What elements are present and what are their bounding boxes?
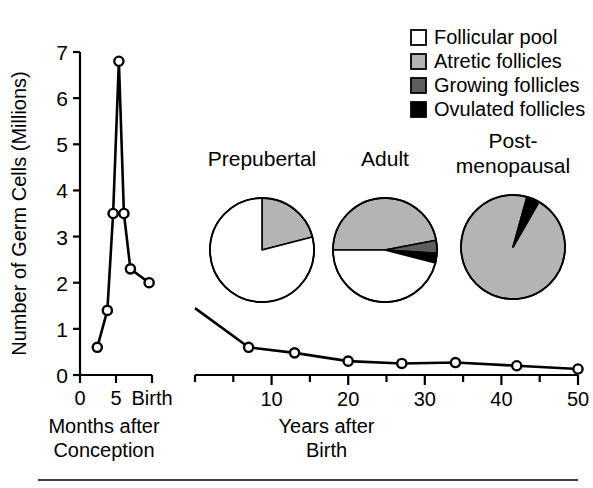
x-axis-title-postnatal-line2: Birth bbox=[306, 439, 347, 461]
germ-cell-figure: 01234567Number of Germ Cells (Millions)0… bbox=[0, 0, 593, 488]
legend-swatch-white-square-icon bbox=[411, 30, 426, 45]
y-axis-tick-label: 4 bbox=[56, 179, 68, 202]
data-point-marker bbox=[451, 358, 460, 367]
y-axis-tick-label: 5 bbox=[56, 133, 68, 156]
legend-label: Growing follicles bbox=[434, 74, 580, 96]
data-point-marker bbox=[93, 343, 102, 352]
data-point-marker bbox=[126, 264, 135, 273]
pie-title: Post- bbox=[488, 129, 537, 152]
y-axis-tick-label: 7 bbox=[56, 41, 68, 64]
postnatal-panel-line bbox=[195, 308, 578, 369]
y-axis-tick-label: 0 bbox=[56, 364, 68, 387]
data-point-marker bbox=[573, 364, 582, 373]
y-axis-tick-label: 3 bbox=[56, 226, 68, 249]
legend-swatch-black-square-icon bbox=[411, 102, 426, 117]
data-point-marker bbox=[290, 348, 299, 357]
data-point-marker bbox=[119, 209, 128, 218]
x-axis-title-prenatal-line2: Conception bbox=[53, 439, 154, 461]
pie-title: menopausal bbox=[456, 154, 570, 177]
figure-canvas: 01234567Number of Germ Cells (Millions)0… bbox=[0, 0, 593, 488]
pie-title: Prepubertal bbox=[208, 147, 317, 170]
x-axis-title-prenatal-line1: Months after bbox=[48, 415, 160, 437]
legend-label: Atretic follicles bbox=[434, 50, 562, 72]
data-point-marker bbox=[344, 357, 353, 366]
data-point-marker bbox=[244, 343, 253, 352]
pie-title: Adult bbox=[361, 147, 409, 170]
x-axis-title-postnatal-line1: Years after bbox=[279, 415, 375, 437]
legend-swatch-dark-gray-square-icon bbox=[411, 78, 426, 93]
data-point-marker bbox=[145, 278, 154, 287]
data-point-marker bbox=[114, 57, 123, 66]
legend-swatch-light-gray-square-icon bbox=[411, 54, 426, 69]
x-axis-tick-label-prenatal: 0 bbox=[74, 387, 85, 409]
y-axis-title: Number of Germ Cells (Millions) bbox=[8, 71, 30, 356]
x-axis-tick-label-postnatal: 50 bbox=[567, 388, 589, 410]
data-point-marker bbox=[103, 306, 112, 315]
legend-label: Follicular pool bbox=[434, 26, 557, 48]
x-axis-tick-label-postnatal: 30 bbox=[414, 388, 436, 410]
y-axis-tick-label: 2 bbox=[56, 272, 68, 295]
x-axis-tick-label-postnatal: 40 bbox=[490, 388, 512, 410]
y-axis-tick-label: 1 bbox=[56, 318, 68, 341]
pie-slice bbox=[333, 198, 436, 250]
data-point-marker bbox=[109, 209, 118, 218]
x-axis-tick-label-postnatal: 10 bbox=[260, 388, 282, 410]
x-axis-tick-label-prenatal: 5 bbox=[110, 387, 121, 409]
y-axis-tick-label: 6 bbox=[56, 87, 68, 110]
x-axis-tick-label-postnatal: 20 bbox=[337, 388, 359, 410]
data-point-marker bbox=[397, 359, 406, 368]
x-axis-tick-label-prenatal: Birth bbox=[131, 387, 172, 409]
legend-label: Ovulated follicles bbox=[434, 98, 585, 120]
data-point-marker bbox=[512, 361, 521, 370]
prenatal-panel-line bbox=[97, 61, 149, 347]
